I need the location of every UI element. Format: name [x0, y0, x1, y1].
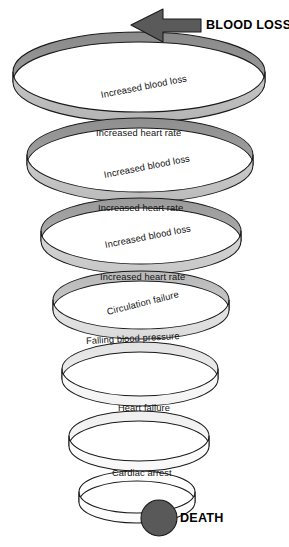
- coil-3-back-face: [41, 198, 241, 241]
- coil-6-front-face: [69, 436, 209, 471]
- coil-1-front-face: [13, 72, 265, 122]
- spiral-illustration: [0, 0, 289, 547]
- coil-1-back-face: [13, 32, 265, 82]
- coil-4-front-face: [53, 300, 229, 339]
- death-callout: DEATH: [180, 511, 223, 525]
- coil-7-tail-face: [79, 471, 195, 502]
- coil-5-front-face: [62, 369, 218, 406]
- coil-4-back-face: [53, 271, 229, 310]
- coil-5-back-face: [62, 342, 218, 379]
- coil-2-back-face: [27, 118, 253, 165]
- coil-7-tail-front: [79, 492, 195, 523]
- coil-6-back-face: [69, 411, 209, 446]
- coil-3-front-face: [41, 231, 241, 274]
- blood-loss-death-spiral-diagram: BLOOD LOSS Increased blood loss Increase…: [0, 0, 289, 547]
- coil-2-front-face: [27, 155, 253, 202]
- blood-loss-callout: BLOOD LOSS: [206, 18, 289, 32]
- filled-circle-icon: [141, 500, 177, 536]
